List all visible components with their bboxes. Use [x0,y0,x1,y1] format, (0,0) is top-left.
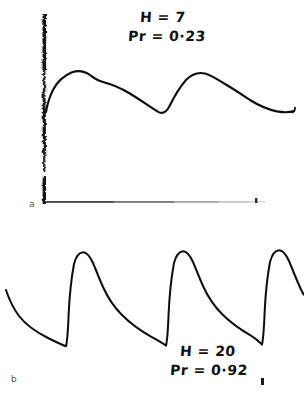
figure-container: H = 7 Pr = 0·23 H = 20 Pr = 0·92 a b [0,0,304,401]
trace-a [46,71,294,113]
panel-label-a: a [29,199,35,209]
annotation-a-line2: Pr = 0·23 [127,27,206,46]
annotation-b-line2: Pr = 0·92 [169,361,248,380]
x-axis-a [44,198,265,203]
annotation-a-line1: H = 7 [139,8,206,27]
panel-a: H = 7 Pr = 0·23 [0,0,304,215]
panel-b: H = 20 Pr = 0·92 [0,215,304,401]
annotation-panel-a: H = 7 Pr = 0·23 [128,8,206,46]
trace-b [6,250,304,346]
annotation-panel-b: H = 20 Pr = 0·92 [170,342,248,380]
panel-label-b: b [11,374,17,384]
trace-a-end-hook [292,108,295,113]
edge-tick-mark [261,378,264,385]
panel-b-plot [0,215,304,401]
annotation-b-line1: H = 20 [179,342,248,361]
